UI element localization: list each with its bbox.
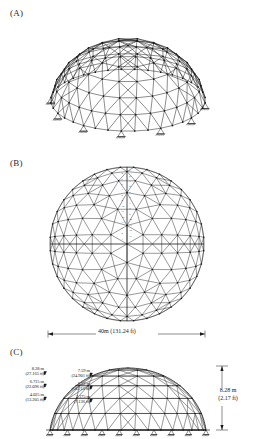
panel-b-figure: 1425364758697108119121013111122133 [0, 152, 253, 344]
total-rise-metric: 8.28 m [220, 387, 237, 393]
panel-b: (B) 1425364758697108119121013111122133 4… [0, 152, 253, 344]
svg-text:12: 12 [129, 229, 132, 232]
dome-plan-svg: 1425364758697108119121013111122133 [0, 152, 253, 344]
svg-text:4: 4 [122, 172, 124, 175]
svg-text:3: 3 [129, 180, 131, 183]
total-rise-imperial: (2.17 ft) [218, 395, 238, 401]
svg-text:5: 5 [122, 178, 124, 181]
height-label-2: 6.715 m (22.096 ft) [0, 379, 44, 389]
svg-text:10: 10 [122, 205, 125, 208]
figure-page: { "figure": { "panels": [ {"id": "A", "l… [0, 0, 253, 439]
svg-text:12: 12 [122, 216, 125, 219]
panel-a-figure [0, 0, 253, 152]
svg-text:8: 8 [129, 207, 131, 210]
svg-text:1: 1 [129, 169, 131, 172]
svg-text:2: 2 [122, 232, 124, 235]
svg-text:10: 10 [129, 218, 132, 221]
svg-text:7: 7 [129, 202, 131, 205]
svg-text:6: 6 [129, 196, 131, 199]
svg-text:3: 3 [122, 238, 124, 241]
panel-c: (C) [0, 344, 253, 439]
inner-height-3-imperial: (7.136 ft) [74, 399, 90, 404]
height-3-imperial: (13.205 ft) [25, 397, 44, 402]
total-rise-label: 8.28 m (2.17 ft) [206, 386, 250, 402]
svg-text:1: 1 [122, 227, 124, 230]
height-label-3: 4.025 m (13.205 ft) [0, 392, 44, 402]
svg-text:9: 9 [122, 199, 124, 202]
inner-height-label-1: 7.59 m (24.901 ft) [50, 368, 90, 378]
inner-height-1-imperial: (24.901 ft) [71, 373, 90, 378]
height-2-imperial: (22.096 ft) [25, 384, 44, 389]
svg-text:7: 7 [122, 188, 124, 191]
inner-height-label-2: 5.52 m (18.215 ft) [50, 381, 90, 391]
panel-a: (A) [0, 0, 253, 152]
svg-text:11: 11 [122, 210, 125, 213]
svg-text:13: 13 [129, 235, 132, 238]
dome-perspective-svg [0, 0, 253, 152]
svg-text:8: 8 [122, 194, 124, 197]
svg-text:9: 9 [129, 213, 131, 216]
svg-text:13: 13 [122, 221, 125, 224]
svg-text:6: 6 [122, 183, 124, 186]
height-1-imperial: (27.165 ft) [25, 371, 44, 376]
inner-height-label-3: 2.175 m (7.136 ft) [50, 394, 90, 404]
inner-height-2-imperial: (18.215 ft) [71, 386, 90, 391]
span-dimension-label: 40m (131.24 ft) [98, 328, 136, 334]
height-label-1: 8.28 m (27.165 ft) [0, 366, 44, 376]
